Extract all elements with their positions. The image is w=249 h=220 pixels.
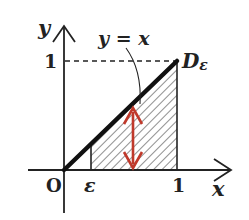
x-tick-epsilon: ε bbox=[84, 174, 96, 196]
y-axis-label: y bbox=[37, 15, 52, 40]
y-tick-one: 1 bbox=[44, 50, 57, 72]
diagram-canvas: y x 1 O ε 1 y = x Dε bbox=[0, 0, 249, 220]
region-label-main: D bbox=[181, 49, 200, 73]
region-label-subscript: ε bbox=[199, 57, 208, 73]
x-axis-label: x bbox=[211, 176, 225, 201]
x-tick-one: 1 bbox=[172, 174, 185, 196]
curve-label: y = x bbox=[97, 27, 150, 49]
origin-label: O bbox=[46, 175, 62, 196]
region-label: Dε bbox=[181, 49, 208, 73]
